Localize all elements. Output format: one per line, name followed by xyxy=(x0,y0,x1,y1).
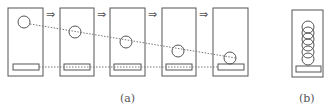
panel-b-label: (b) xyxy=(299,92,315,105)
frame-4 xyxy=(162,8,196,76)
frame-b xyxy=(292,10,323,77)
platform-4 xyxy=(166,64,192,70)
ball-3 xyxy=(120,36,132,48)
platform-5 xyxy=(218,64,244,70)
ball-2 xyxy=(69,26,81,38)
panel-a-label: (a) xyxy=(120,92,135,105)
arrow-icon: ⇒ xyxy=(46,8,55,21)
trajectory-line xyxy=(30,24,236,58)
ball-stack-circle xyxy=(302,46,314,58)
platform-2 xyxy=(64,64,90,70)
platform-b xyxy=(296,66,321,72)
arrow-icon: ⇒ xyxy=(148,8,157,21)
bouncing-ball-diagram: ⇒ ⇒ ⇒ ⇒ xyxy=(0,0,332,111)
ball-stack-circle xyxy=(302,53,314,65)
ball-4 xyxy=(172,45,184,57)
arrow-icon: ⇒ xyxy=(97,8,106,21)
frame-2 xyxy=(60,8,94,76)
ball-1 xyxy=(18,16,30,28)
platform-1 xyxy=(13,64,39,70)
arrow-icon: ⇒ xyxy=(199,8,208,21)
